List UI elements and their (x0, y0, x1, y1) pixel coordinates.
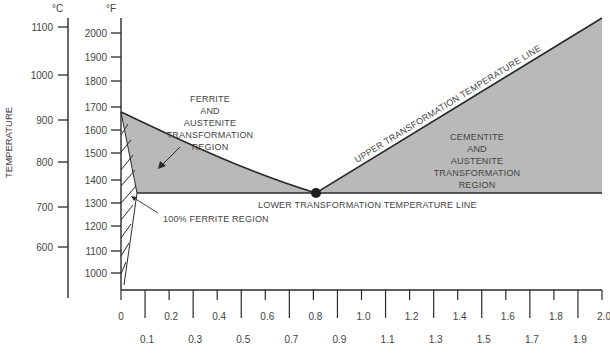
carbon-tick-label: 0.7 (284, 334, 298, 345)
carbon-tick-label: 1.9 (573, 334, 587, 345)
fahrenheit-tick-label: 1100 (85, 246, 107, 257)
region-label-line: REGION (192, 142, 229, 152)
carbon-tick-label: 0.4 (212, 311, 226, 322)
carbon-tick-label: 1.0 (357, 311, 371, 322)
region-label-line: CEMENTITE (450, 132, 504, 142)
celsius-tick-label: 1100 (31, 22, 53, 33)
fahrenheit-tick-label: 1600 (85, 125, 108, 136)
fahrenheit-tick-label: 1200 (85, 221, 108, 232)
fahrenheit-tick-label: 1300 (85, 198, 108, 209)
carbon-tick-label: 1.1 (381, 334, 395, 345)
carbon-tick-label: 1.2 (405, 311, 419, 322)
celsius-tick-label: 700 (36, 202, 53, 213)
carbon-tick-label: 0 (118, 311, 124, 322)
celsius-tick-label: 800 (36, 157, 53, 168)
region-label-line: TRANSFORMATION (434, 168, 521, 178)
carbon-tick-label: 2.0 (597, 311, 610, 322)
eutectoid-point (311, 188, 321, 198)
region-label-line: AUSTENITE (451, 156, 503, 166)
region-label-line: TRANSFORMATION (167, 130, 254, 140)
ferrite-100-label: 100% FERRITE REGION (163, 214, 269, 224)
carbon-tick-label: 1.6 (501, 311, 515, 322)
fahrenheit-tick-label: 2000 (85, 28, 108, 39)
carbon-tick-label: 1.4 (453, 311, 467, 322)
celsius-tick-label: 900 (36, 115, 53, 126)
fahrenheit-tick-label: 1500 (85, 148, 108, 159)
region-label-line: AND (200, 106, 220, 116)
carbon-tick-label: 0.1 (140, 334, 154, 345)
carbon-ticks: 00.10.20.30.40.50.60.70.80.91.01.11.21.3… (118, 290, 610, 345)
fahrenheit-tick-label: 1400 (85, 175, 108, 186)
fahrenheit-tick-label: 1700 (85, 102, 108, 113)
carbon-tick-label: 0.6 (260, 311, 274, 322)
celsius-tick-label: 1000 (31, 70, 54, 81)
fahrenheit-unit-label: °F (106, 3, 116, 14)
carbon-tick-label: 1.7 (525, 334, 539, 345)
region-label-line: REGION (459, 180, 496, 190)
region-label-line: AUSTENITE (184, 118, 236, 128)
celsius-unit-label: °C (52, 3, 63, 14)
carbon-tick-label: 1.3 (429, 334, 443, 345)
lower-line-label: LOWER TRANSFORMATION TEMPERATURE LINE (258, 200, 477, 210)
carbon-tick-label: 0.3 (188, 334, 202, 345)
celsius-ticks: 11001000900800700600 (31, 22, 68, 253)
region-label-line: FERRITE (190, 94, 230, 104)
temperature-axis-label: TEMPERATURE (3, 107, 14, 178)
carbon-tick-label: 0.5 (236, 334, 250, 345)
celsius-tick-label: 600 (36, 242, 53, 253)
region-label-line: AND (467, 144, 487, 154)
carbon-tick-label: 0.9 (332, 334, 346, 345)
fahrenheit-tick-label: 1900 (85, 52, 108, 63)
fahrenheit-ticks: 2000190018001700160015001400130012001100… (85, 28, 121, 279)
carbon-tick-label: 0.8 (308, 311, 322, 322)
carbon-tick-label: 1.5 (477, 334, 491, 345)
carbon-tick-label: 1.8 (549, 311, 563, 322)
iron-carbon-phase-diagram: °C 11001000900800700600 °F 2000190018001… (0, 0, 610, 360)
fahrenheit-tick-label: 1000 (85, 268, 108, 279)
fahrenheit-tick-label: 1800 (85, 76, 108, 87)
carbon-tick-label: 0.2 (164, 311, 178, 322)
